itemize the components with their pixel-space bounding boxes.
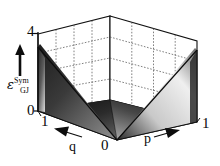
z-axis-subscript: GJ (20, 87, 29, 95)
z-axis-max-label: 4 (27, 24, 35, 39)
z-axis (34, 32, 38, 112)
p-axis-title: p (144, 132, 151, 146)
z-axis-title: εSymGJ (7, 78, 29, 91)
p-axis-max-label: 1 (202, 116, 210, 131)
surface-right-wall-edge (190, 50, 197, 124)
surface-left-wall-edge (38, 47, 45, 112)
figure-3d-surface-plot: 4 0 εSymGJ 1 0 1 q p (0, 0, 220, 166)
z-axis-arrow-icon (15, 44, 25, 76)
q-axis-title: q (69, 140, 76, 154)
z-axis-min-label: 0 (27, 103, 35, 118)
q-axis-arrow-icon (54, 127, 82, 138)
q-axis-max-label: 1 (41, 114, 49, 129)
z-axis-superscript: Sym (14, 76, 29, 85)
origin-label: 0 (101, 138, 109, 153)
z-axis-symbol: ε (7, 77, 14, 92)
